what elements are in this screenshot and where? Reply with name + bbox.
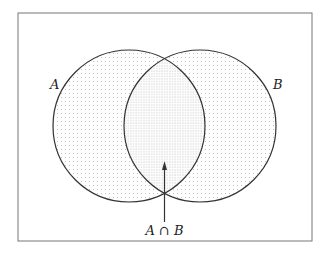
set-a-label: A [49,77,59,92]
set-b-label: B [272,77,283,92]
venn-diagram: A B A ∩ B [0,0,328,255]
intersection-label: A ∩ B [144,223,183,238]
